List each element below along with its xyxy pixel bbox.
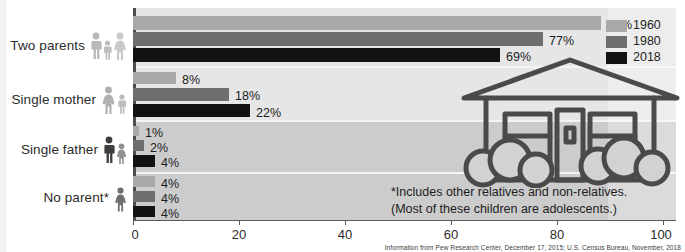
bar-value-single-mother-1960: 8% [182, 74, 200, 87]
bar-single-father-1960 [133, 126, 139, 136]
legend-item-1960[interactable]: 1960 [606, 19, 672, 32]
footnote-line-1: *Includes other relatives and non-relati… [391, 184, 627, 201]
source-footer: Information from Pew Research Center, De… [385, 244, 681, 251]
bar-value-two-parents-1980: 77% [549, 35, 574, 48]
x-tick-label-80: 80 [550, 227, 564, 242]
x-axis: 0 20 40 60 80 100 [133, 220, 676, 221]
bar-single-mother-2018 [133, 104, 250, 117]
legend-swatch-1980 [606, 36, 627, 48]
no-parent-figures-group [114, 182, 127, 212]
bar-value-two-parents-2018: 69% [506, 51, 531, 64]
category-label-single-father: Single father [21, 134, 127, 164]
x-tick-100 [663, 220, 664, 225]
bar-two-parents-1960 [133, 16, 601, 30]
x-tick-40 [345, 220, 346, 225]
footnote-line-2: (Most of these children are adolescents.… [391, 201, 627, 218]
x-tick-label-40: 40 [338, 227, 352, 242]
adult-man-figure-icon [103, 136, 115, 164]
x-tick-label-0: 0 [131, 227, 138, 242]
legend-item-2018[interactable]: 2018 [606, 51, 672, 64]
bar-value-no-parent-2018: 4% [161, 208, 179, 221]
bar-value-single-mother-1980: 18% [235, 90, 260, 103]
bar-single-mother-1960 [133, 72, 176, 84]
bar-value-single-father-2018: 4% [161, 157, 179, 170]
category-label-text: Single father [21, 142, 98, 157]
child-figure-icon [117, 94, 127, 114]
legend-item-1980[interactable]: 1980 [606, 35, 672, 48]
adult-woman-figure-icon [113, 32, 127, 60]
category-label-text: No parent* [43, 190, 109, 205]
bar-no-parent-1980 [133, 191, 155, 202]
bar-single-father-1980 [133, 140, 144, 151]
category-label-text: Single mother [11, 92, 96, 107]
legend-swatch-2018 [606, 52, 627, 64]
x-tick-60 [451, 220, 452, 225]
bar-value-single-mother-2018: 22% [256, 107, 281, 120]
single-mother-figures-group [101, 84, 127, 114]
x-tick-80 [557, 220, 558, 225]
adult-woman-figure-icon [101, 86, 116, 114]
bar-no-parent-1960 [133, 176, 155, 187]
category-label-no-parent: No parent* [43, 182, 127, 212]
child-figure-icon [103, 40, 112, 60]
bar-value-single-father-1960: 1% [145, 127, 163, 140]
child-figure-icon [114, 187, 127, 212]
bar-two-parents-1980 [133, 32, 543, 46]
x-tick-0 [133, 220, 134, 225]
category-labels-column: Two parents Single mother [0, 8, 133, 220]
band-single-father [133, 122, 676, 172]
legend-label-2018: 2018 [633, 51, 661, 64]
bar-no-parent-2018 [133, 206, 155, 217]
child-figure-icon [116, 143, 127, 164]
x-tick-label-100: 100 [650, 227, 672, 242]
single-father-figures-group [103, 134, 127, 164]
x-tick-20 [239, 220, 240, 225]
bar-value-no-parent-1980: 4% [161, 193, 179, 206]
bar-single-father-2018 [133, 155, 155, 167]
category-label-single-mother: Single mother [11, 84, 127, 114]
bar-single-mother-1980 [133, 88, 229, 101]
bar-value-single-father-1980: 2% [150, 142, 168, 155]
legend-label-1960: 1960 [633, 19, 661, 32]
bar-value-no-parent-1960: 4% [161, 178, 179, 191]
legend: 1960 1980 2018 [606, 19, 672, 67]
two-parents-figures-group [90, 30, 127, 60]
chart-figure: Two parents Single mother [0, 0, 685, 252]
x-tick-label-60: 60 [444, 227, 458, 242]
adult-man-figure-icon [90, 32, 102, 60]
plot-area: 88% 77% 69% 8% 18% 22% 1% 2% 4% 4% 4% 4%… [133, 8, 676, 220]
legend-swatch-1960 [606, 20, 627, 32]
category-label-two-parents: Two parents [10, 30, 127, 60]
x-tick-label-20: 20 [232, 227, 246, 242]
legend-label-1980: 1980 [633, 35, 661, 48]
bar-two-parents-2018 [133, 48, 500, 62]
category-label-text: Two parents [10, 38, 85, 53]
footnote-annotation: *Includes other relatives and non-relati… [391, 184, 627, 218]
